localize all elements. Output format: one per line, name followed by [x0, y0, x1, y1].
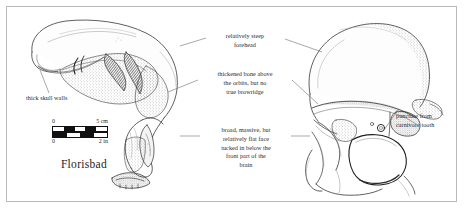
annotation-puncture-from-carnivore-tooth: puncture from carnivore tooth [396, 112, 460, 130]
annotation-relatively-steep-forehead: relatively steep forehead [208, 32, 282, 50]
right-skull-drawing [306, 22, 443, 196]
scale-bar-bottom-labels: 0 2 in [52, 138, 108, 146]
scale-bottom-max-label: 2 in [99, 138, 108, 144]
leader-steep-forehead-right [285, 39, 322, 52]
scale-segment [75, 127, 86, 131]
scale-top-min-label: 0 [52, 118, 55, 124]
scale-segment [94, 133, 108, 137]
leader-steep-forehead-left [180, 38, 206, 46]
scale-segment [53, 127, 64, 131]
scale-segment [53, 133, 67, 137]
specimen-caption: Florisbad [30, 158, 138, 170]
leader-thick-skull-walls [40, 70, 49, 93]
scale-bar-top-labels: 0 5 cm [52, 118, 108, 126]
annotation-thick-skull-walls: thick skull walls [26, 94, 106, 103]
annotation-thickened-bone-above-orbits: thickened bone above the orbits, but no … [200, 70, 290, 96]
scale-segment [67, 133, 81, 137]
figure-container: thick skull walls relatively steep foreh… [0, 0, 465, 210]
scale-bar: 0 5 cm 0 2 in [52, 118, 108, 146]
annotation-broad-massive-flat-face: broad, massive, but relatively flat face… [203, 126, 289, 170]
scale-top-max-label: 5 cm [96, 118, 108, 124]
scale-segment [64, 127, 75, 131]
scale-segment [96, 127, 107, 131]
scale-bottom-min-label: 0 [52, 138, 55, 144]
scale-segment [80, 133, 94, 137]
scale-segment [85, 127, 96, 131]
